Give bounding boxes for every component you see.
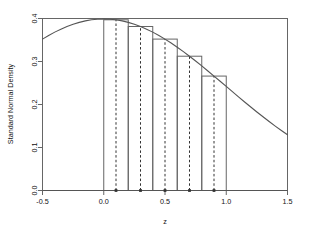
midpoint-marker [139,189,142,192]
x-tick-label: 0.0 [99,197,109,206]
y-axis-title: Standard Normal Density [6,63,15,144]
y-tick-label: 0.4 [30,14,39,24]
midpoint-marker [115,189,118,192]
x-tick-label: 1.0 [221,197,231,206]
x-axis-title: z [163,217,167,226]
x-tick-label: -0.5 [36,197,48,206]
midpoint-marker [213,189,216,192]
y-tick-label: 0.0 [30,186,39,196]
standard-normal-density-chart: -0.50.00.51.01.5 0.00.10.20.30.4 z Stand… [0,0,312,234]
chart-root: -0.50.00.51.01.5 0.00.10.20.30.4 z Stand… [0,0,312,234]
y-tick-label: 0.1 [30,143,39,153]
midpoint-marker [164,189,167,192]
y-tick-label: 0.2 [30,100,39,110]
midpoint-marker [188,189,191,192]
x-tick-label: 1.5 [283,197,293,206]
y-tick-label: 0.3 [30,57,39,67]
x-tick-label: 0.5 [160,197,170,206]
